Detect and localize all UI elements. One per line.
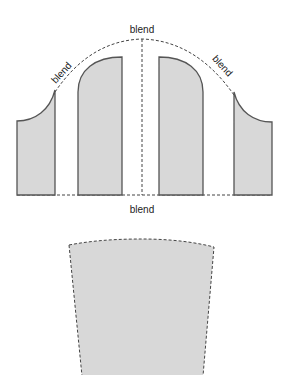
left-blend-label: blend [49,60,74,86]
pattern-diagram: blend blend blend blend [0,0,287,375]
blended-result-panel [69,239,214,375]
right-center-panel [159,57,203,195]
left-side-panel [17,90,55,195]
left-center-panel [78,57,122,195]
bottom-blend-label: blend [130,204,154,215]
right-blend-label: blend [210,53,235,79]
top-blend-label: blend [130,24,154,35]
right-side-panel [234,92,272,195]
